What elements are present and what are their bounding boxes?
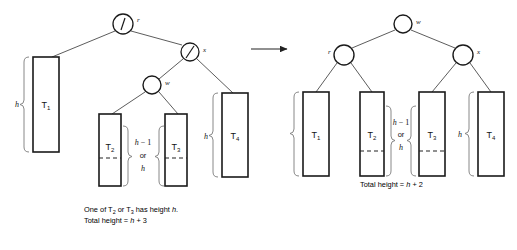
left-node-w: w — [143, 76, 170, 94]
right-caption-line1: Total height = h + 2 — [360, 180, 423, 190]
edge-x-t3 — [432, 63, 456, 92]
node-circle-w-right — [394, 15, 412, 33]
right-node-root: w — [394, 15, 421, 33]
left-node-root: r — [113, 14, 140, 34]
left-caption-line1: One of T2 or T3 has height h. — [84, 205, 178, 216]
left-brace-label-h-t4: h — [204, 132, 208, 141]
edge-w-r — [352, 30, 395, 48]
node-circle-x-right — [453, 45, 473, 65]
brace-h-t4-right — [465, 92, 474, 176]
edge-r-t1 — [316, 63, 337, 92]
edge-x-w — [159, 59, 183, 79]
figure-canvas: r x w T1 T2 T3 — [0, 0, 517, 250]
left-middle-height-label: h − 1 or h — [135, 138, 152, 173]
node-circle-w — [143, 76, 161, 94]
brace-t1-right — [290, 92, 299, 176]
right-middle-line3: h — [399, 143, 403, 152]
brace-mid-left-right — [386, 106, 395, 176]
right-node-label-r: r — [328, 48, 331, 56]
left-node-label-w: w — [165, 79, 170, 87]
left-caption-line2-pre: Total height = — [84, 216, 130, 225]
brace-mid-left — [123, 126, 132, 186]
left-caption-sub-3: 3 — [131, 209, 134, 215]
edge-root-x — [131, 31, 182, 45]
right-brace-label-h-t4: h — [458, 130, 462, 139]
right-middle-line1: h − 1 — [393, 118, 410, 127]
diagram-svg: r x w T1 T2 T3 — [0, 0, 517, 250]
left-caption-line1-end: . — [176, 205, 178, 214]
left-node-label-x: x — [202, 46, 207, 54]
edge-x-t4 — [470, 63, 491, 92]
left-middle-line2: or — [140, 151, 147, 160]
right-tree: w r x T1 T2 T3 T4 — [290, 15, 504, 176]
edge-root-t1 — [52, 31, 115, 57]
brace-h-t4 — [209, 93, 218, 177]
edge-w-t3 — [159, 92, 178, 114]
edge-w-x — [411, 30, 455, 48]
brace-mid-right-right — [407, 106, 416, 176]
left-caption-line2-post: + 3 — [134, 216, 147, 225]
right-node-label-x: x — [476, 48, 481, 56]
left-caption-line1-post: has height — [134, 205, 172, 214]
left-caption-sub-2: 2 — [113, 209, 116, 215]
left-caption-line2: Total height = h + 3 — [84, 216, 178, 226]
left-middle-line3: h — [141, 164, 145, 173]
right-caption: Total height = h + 2 — [360, 180, 423, 190]
left-node-label-r: r — [137, 16, 140, 24]
edge-x-t4 — [197, 59, 233, 93]
node-circle-r-right — [334, 45, 354, 65]
right-middle-height-label: h − 1 or h — [393, 118, 410, 152]
right-node-label-w: w — [416, 18, 421, 26]
left-brace-label-h-t1: h — [15, 100, 19, 109]
right-middle-line2: or — [398, 130, 405, 139]
edge-r-t2 — [351, 63, 372, 92]
left-caption-line1-mid: or T — [116, 205, 131, 214]
right-node-x: x — [453, 45, 481, 65]
right-caption-post: + 2 — [410, 180, 423, 189]
brace-h-t1 — [20, 57, 29, 152]
edge-w-t2 — [112, 92, 145, 114]
left-caption-line1-pre: One of T — [84, 205, 113, 214]
brace-mid-right — [155, 126, 164, 186]
left-caption: One of T2 or T3 has height h. Total heig… — [84, 205, 178, 225]
right-caption-pre: Total height = — [360, 180, 406, 189]
right-node-r: r — [328, 45, 354, 65]
left-node-x: x — [181, 43, 207, 61]
left-middle-line1: h − 1 — [135, 138, 152, 147]
left-tree-edges — [52, 31, 233, 114]
left-tree: r x w T1 T2 T3 — [15, 14, 248, 186]
